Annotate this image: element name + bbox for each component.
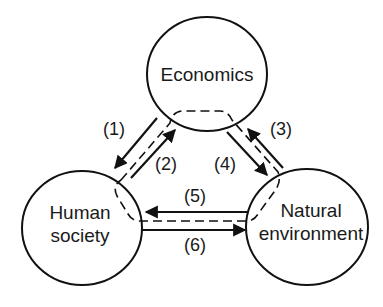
edge-label-4: (4) — [214, 154, 236, 174]
node-human-society: Human society — [22, 171, 142, 285]
economics-label: Economics — [161, 64, 254, 85]
natural-environment-label-line1: Natural — [280, 200, 341, 221]
node-economics: Economics — [147, 17, 267, 131]
edge-label-5: (5) — [184, 186, 206, 206]
edge-label-2: (2) — [155, 154, 177, 174]
edge-label-3: (3) — [270, 119, 292, 139]
human-society-label-line1: Human — [49, 202, 110, 223]
diagram-canvas: Economics Human society Natural environm… — [0, 0, 383, 307]
natural-environment-label-line2: environment — [259, 223, 364, 244]
human-society-label-line2: society — [50, 225, 110, 246]
node-natural-environment: Natural environment — [246, 169, 368, 285]
edge-label-1: (1) — [103, 119, 125, 139]
edge-label-6: (6) — [184, 235, 206, 255]
